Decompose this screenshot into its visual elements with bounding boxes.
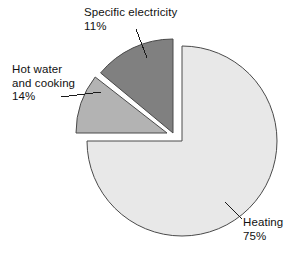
- slice-label-hot-water-percent: 14%: [12, 90, 75, 104]
- slice-label-heating-percent: 75%: [243, 230, 283, 244]
- pie-chart: Specific electricity 11% Hot water and c…: [0, 0, 302, 260]
- slice-label-hot-water-text-line2: and cooking: [12, 77, 75, 91]
- slice-label-heating-text: Heating: [243, 216, 283, 228]
- slice-label-specific-electricity-text: Specific electricity: [84, 6, 177, 18]
- slice-label-heating: Heating 75%: [243, 216, 283, 243]
- slice-label-hot-water-text-line1: Hot water: [12, 63, 62, 75]
- slice-label-specific-electricity: Specific electricity 11%: [84, 6, 177, 33]
- slice-label-hot-water: Hot water and cooking 14%: [12, 63, 75, 104]
- slice-label-specific-electricity-percent: 11%: [84, 20, 177, 34]
